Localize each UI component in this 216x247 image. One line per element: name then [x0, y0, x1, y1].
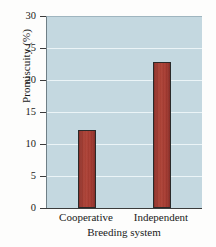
- bar-cooperative: [78, 130, 96, 208]
- y-tick-label-0: 0: [2, 203, 36, 213]
- gridline-25: [47, 48, 202, 49]
- y-tick-label-30: 30: [2, 11, 36, 21]
- x-axis-title: Breeding system: [46, 226, 202, 238]
- y-tick-label-20: 20: [2, 75, 36, 85]
- gridline-5: [47, 176, 202, 177]
- gridline-20: [47, 80, 202, 81]
- y-tick-label-5: 5: [2, 171, 36, 181]
- y-tick-label-10: 10: [2, 139, 36, 149]
- gridline-15: [47, 112, 202, 113]
- x-tick-label-independent: Independent: [115, 211, 207, 224]
- y-tick-label-15: 15: [2, 107, 36, 117]
- gridline-10: [47, 144, 202, 145]
- y-tick-label-25: 25: [2, 43, 36, 53]
- y-axis-title: Promiscuity (%): [20, 0, 32, 146]
- bar-chart-figure: Promiscuity (%) 30 25 20 15 10 5 0 Coope…: [0, 0, 216, 247]
- plot-area: [46, 16, 202, 208]
- bar-independent: [153, 62, 171, 208]
